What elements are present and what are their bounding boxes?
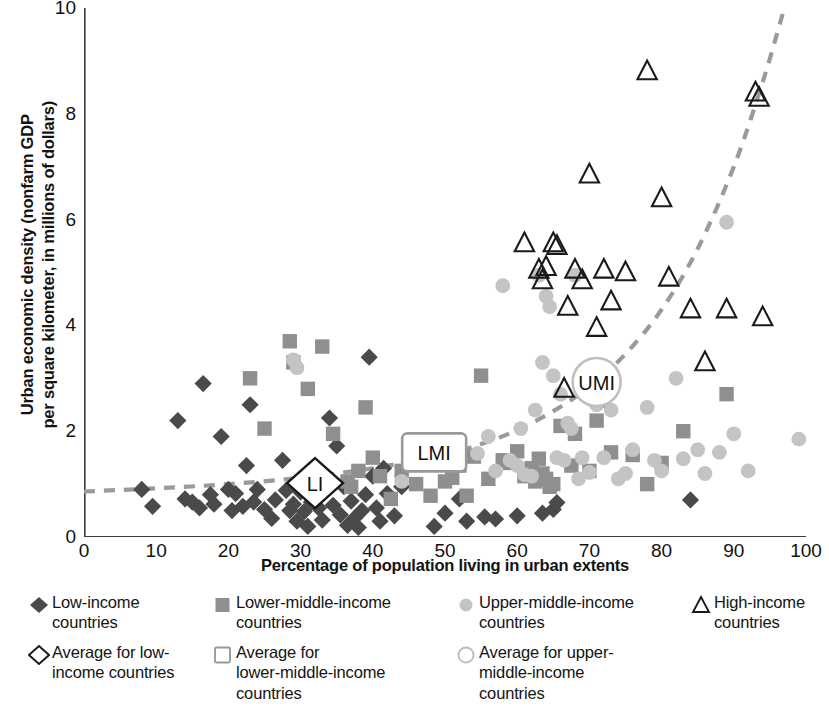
data-point-square [351, 464, 365, 478]
data-point-diamond [144, 498, 161, 515]
y-axis-title-line1: Urban economic density (nonfarm GDP [18, 114, 36, 415]
data-point-circle [546, 368, 561, 383]
data-point-square [459, 489, 473, 503]
data-point-diamond [426, 518, 443, 535]
legend-item-label: Average for low-income countries [52, 642, 174, 683]
legend-label-line: countries [479, 684, 545, 702]
legend-label-line: income countries [52, 663, 174, 681]
data-point-triangle [695, 352, 714, 371]
data-point-triangle [601, 291, 620, 310]
legend-marker-icon [28, 595, 50, 615]
data-point-circle [791, 432, 806, 447]
legend-marker-icon [455, 595, 477, 615]
legend-item-5[interactable]: Average forlower-middle-incomecountries [212, 642, 385, 703]
data-point-diamond [436, 505, 453, 522]
data-point-triangle [515, 233, 534, 252]
data-point-diamond [238, 457, 255, 474]
data-point-circle [618, 466, 633, 481]
y-axis-tick-label: 8 [48, 103, 76, 125]
data-point-diamond [357, 486, 374, 503]
legend-item-6[interactable]: Average for upper-middle-incomecountries [455, 642, 614, 703]
data-point-circle [654, 463, 669, 478]
data-point-triangle [652, 188, 671, 207]
legend-item-label: Average for upper-middle-incomecountries [479, 642, 614, 703]
legend-label-line: middle-income [479, 663, 584, 681]
data-point-diamond [195, 375, 212, 392]
data-point-square [243, 371, 257, 385]
data-point-square [589, 413, 603, 427]
legend-label-line: countries [479, 613, 545, 631]
data-point-square [373, 469, 387, 483]
data-point-circle [513, 421, 528, 436]
trend-line [84, 8, 784, 492]
legend-item-1[interactable]: Lower-middle-incomecountries [212, 592, 391, 633]
legend-item-label: Average forlower-middle-incomecountries [236, 642, 385, 703]
data-point-diamond [241, 396, 258, 413]
legend-label-line: Lower-middle-income [236, 593, 391, 611]
data-point-circle [741, 463, 756, 478]
data-point-circle [669, 371, 684, 386]
data-point-triangle [717, 299, 736, 318]
data-point-square [474, 368, 488, 382]
data-point-diamond [368, 499, 385, 516]
data-point-circle [394, 474, 409, 489]
data-point-triangle [558, 296, 577, 315]
data-point-diamond [274, 452, 291, 469]
legend-marker-icon [690, 595, 712, 615]
data-point-square [384, 492, 398, 506]
data-point-circle [542, 299, 557, 314]
data-point-triangle [659, 267, 678, 286]
data-point-circle [712, 445, 727, 460]
data-point-circle [575, 450, 590, 465]
data-point-square [546, 477, 560, 491]
legend-label-line: Average for low- [52, 643, 169, 661]
data-point-circle [726, 426, 741, 441]
data-point-square [423, 489, 437, 503]
average-upper-middle-income-circle-icon [459, 648, 474, 663]
data-point-square [257, 421, 271, 435]
data-point-circle [698, 466, 713, 481]
legend-marker-icon [455, 645, 477, 665]
data-point-diamond [169, 412, 186, 429]
high-income-triangle-icon [693, 597, 709, 612]
data-point-square [640, 477, 654, 491]
data-point-circle [481, 429, 496, 444]
data-point-triangle [580, 164, 599, 183]
data-point-triangle [753, 307, 772, 326]
x-axis-title: Percentage of population living in urban… [84, 556, 806, 575]
data-point-triangle [616, 262, 635, 281]
data-point-square [676, 424, 690, 438]
data-point-circle [290, 360, 305, 375]
data-point-circle [625, 442, 640, 457]
data-point-square [409, 477, 423, 491]
legend-label-line: countries [714, 613, 780, 631]
low-income-diamond-icon [30, 597, 48, 613]
data-point-circle [640, 400, 655, 415]
data-point-diamond [386, 507, 403, 524]
average-marker-label: UMI [578, 372, 615, 394]
data-point-diamond [213, 428, 230, 445]
legend-marker-icon [212, 645, 234, 665]
y-axis-tick-label: 2 [48, 420, 76, 442]
average-low-income-diamond-icon [28, 645, 50, 665]
data-point-circle [719, 215, 734, 230]
data-point-square [532, 452, 546, 466]
data-point-circle [524, 469, 539, 484]
legend-label-line: countries [52, 613, 118, 631]
legend-item-2[interactable]: Upper-middle-incomecountries [455, 592, 634, 633]
data-point-diamond [371, 513, 388, 530]
legend-item-0[interactable]: Low-incomecountries [28, 592, 139, 633]
legend-marker-icon [28, 645, 50, 665]
average-marker-label: LI [307, 473, 324, 495]
legend-item-3[interactable]: High-incomecountries [690, 592, 805, 633]
data-point-diamond [133, 481, 150, 498]
low-income-diamond-icon [28, 595, 50, 615]
legend-item-4[interactable]: Average for low-income countries [28, 642, 174, 683]
legend-label-line: Low-income [52, 593, 139, 611]
plot-area: LILMIUMI [84, 8, 806, 537]
data-point-circle [470, 446, 485, 461]
legend-label-line: High-income [714, 593, 805, 611]
data-point-circle [690, 442, 705, 457]
average-low-income-diamond-icon [29, 646, 49, 664]
data-point-diamond [682, 491, 699, 508]
